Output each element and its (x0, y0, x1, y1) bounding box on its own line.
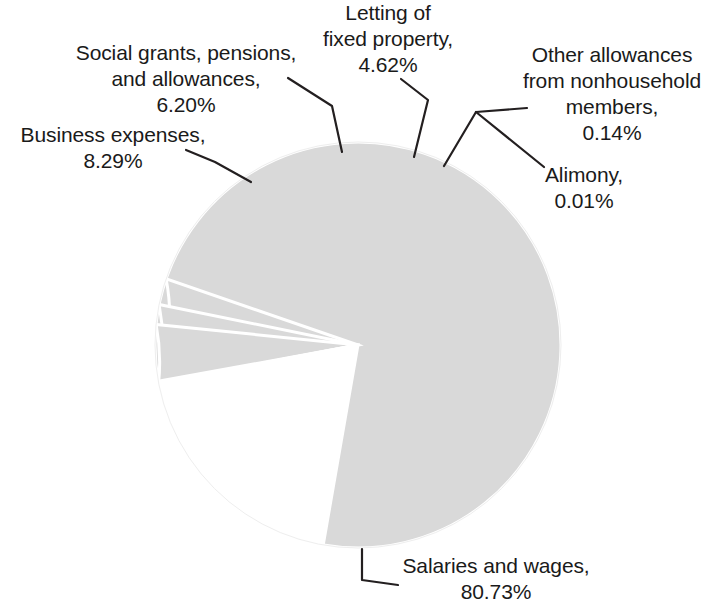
pie-chart-figure: Business expenses, 8.29% Social grants, … (0, 0, 708, 605)
leader-line-letting (401, 79, 428, 157)
pie-label-salaries-and-wages: Salaries and wages, 80.73% (390, 553, 602, 605)
pie-label-alimony: Alimony, 0.01% (518, 162, 650, 214)
pie-slices (155, 142, 561, 548)
pie-label-social-grants: Social grants, pensions, and allowances,… (72, 40, 300, 118)
pie-label-business-expenses: Business expenses, 8.29% (8, 122, 218, 174)
pie-label-other-allowances: Other allowances from nonhousehold membe… (516, 42, 708, 146)
leader-line-other-allowances (444, 108, 527, 166)
pie-label-letting-of-fixed-property: Letting of fixed property, 4.62% (312, 0, 464, 78)
